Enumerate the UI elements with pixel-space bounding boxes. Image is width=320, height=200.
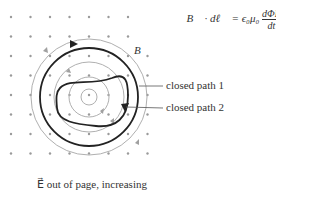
equation-lhs: ∮B⃗ · dℓ⃗: [178, 12, 229, 24]
closed-path-1-label: closed path 1: [166, 79, 224, 91]
ampere-maxwell-equation: ∮B⃗ · dℓ⃗ = ϵ₀μ₀ dΦE dt: [178, 8, 276, 31]
caption: E⃗ out of page, increasing: [37, 178, 147, 191]
path2-leader: [126, 107, 163, 108]
equation-numerator: dΦE: [262, 8, 276, 20]
closed-path-2-label: closed path 2: [166, 101, 224, 113]
closed-path-2: [56, 76, 128, 126]
field-B-label: B: [134, 44, 141, 56]
equation-constants: ϵ₀μ₀: [242, 12, 260, 24]
closed-path-1: [40, 48, 138, 146]
equation-equals: =: [231, 12, 238, 24]
equation-denominator: dt: [262, 20, 276, 31]
